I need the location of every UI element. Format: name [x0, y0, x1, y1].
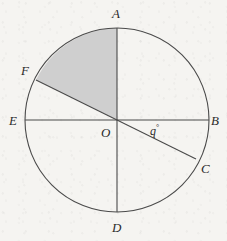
point-label-A: A — [112, 7, 120, 20]
point-label-B: B — [211, 114, 219, 127]
circle-figure — [0, 0, 227, 241]
point-label-E: E — [9, 114, 17, 127]
point-label-D: D — [112, 221, 121, 234]
diagram-canvas: A B C D E F O q° — [0, 0, 227, 241]
angle-label-q: q° — [150, 124, 159, 137]
point-label-C: C — [201, 162, 210, 175]
degree-symbol-icon: ° — [156, 123, 159, 132]
point-label-O: O — [101, 126, 110, 139]
point-label-F: F — [21, 64, 29, 77]
shaded-sector-AOF — [36, 28, 117, 120]
